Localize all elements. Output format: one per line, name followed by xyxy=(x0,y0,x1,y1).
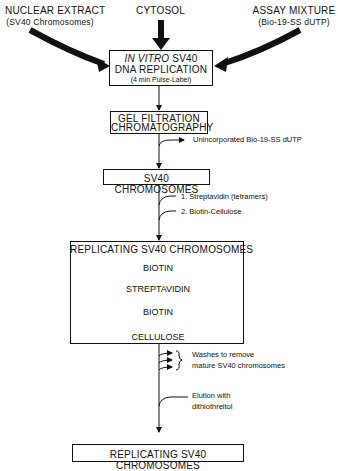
streptavidin-step-note: 1. Streptavidin (tetramers) xyxy=(181,193,268,201)
gel-filtration-line2: CHROMATOGRAPHY xyxy=(111,123,207,133)
cytosol-label: CYTOSOL xyxy=(136,6,185,16)
assay-mixture-label: ASSAY MIXTURE (Bio-19-SS dUTP) xyxy=(252,6,336,27)
biotin-bottom-label: BIOTIN xyxy=(70,308,246,317)
sv40-chromosomes-box: SV40 CHROMOSOMES xyxy=(103,169,210,185)
nuclear-extract-subtitle: (SV40 Chromosomes) xyxy=(5,18,95,27)
complex-title: REPLICATING SV40 CHROMOSOMES xyxy=(70,245,244,255)
biotin-cellulose-step-note: 2. Biotin-Cellulose xyxy=(181,208,241,216)
unincorporated-note: Unincorporated Bio-19-SS dUTP xyxy=(193,136,302,144)
assay-mixture-title: ASSAY MIXTURE xyxy=(252,6,336,16)
dna-replication-label: DNA REPLICATION xyxy=(110,64,212,75)
final-replicating-label: REPLICATING SV40 CHROMOSOMES xyxy=(73,449,243,471)
elution-note-line2: dithiothreitol xyxy=(192,403,232,411)
cellulose-label: CELLULOSE xyxy=(70,333,246,342)
pulse-label-note: (4 min Pulse-Label) xyxy=(110,75,212,84)
nuclear-extract-title: NUCLEAR EXTRACT xyxy=(5,6,95,16)
nuclear-extract-arrow xyxy=(30,30,104,64)
gel-filtration-box: GEL FILTRATION CHROMATOGRAPHY xyxy=(110,111,208,134)
elution-note-line1: Elution with xyxy=(192,392,230,400)
nuclear-extract-label: NUCLEAR EXTRACT (SV40 Chromosomes) xyxy=(5,6,95,27)
assay-mixture-subtitle: (Bio-19-SS dUTP) xyxy=(252,18,336,27)
sv40-label: SV40 xyxy=(169,53,197,64)
washes-note-line1: Washes to remove xyxy=(192,351,254,359)
in-vitro-italic: IN VITRO xyxy=(124,53,169,64)
streptavidin-label: STREPTAVIDIN xyxy=(70,285,246,294)
in-vitro-replication-box: IN VITRO SV40 DNA REPLICATION (4 min Pul… xyxy=(109,50,213,86)
biotin-top-label: BIOTIN xyxy=(70,264,246,273)
washes-note-line2: mature SV40 chromosomes xyxy=(192,362,285,370)
final-replicating-box: REPLICATING SV40 CHROMOSOMES xyxy=(72,444,244,462)
assay-mixture-arrow xyxy=(222,30,300,64)
